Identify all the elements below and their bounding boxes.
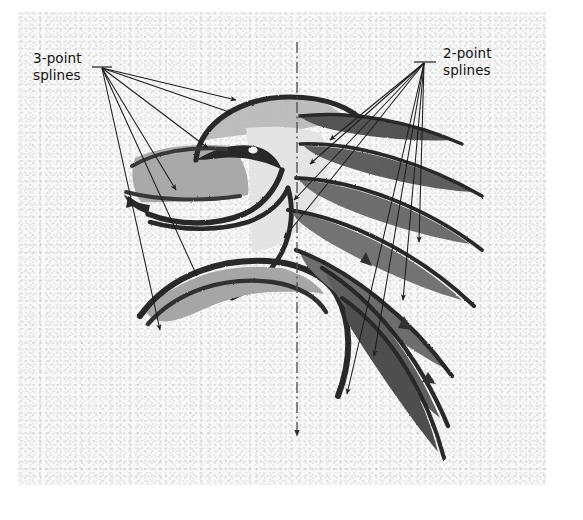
- figure-root: 3-point splines 2-point splines: [0, 0, 583, 520]
- callout-label-3-point-splines: 3-point splines: [33, 50, 82, 84]
- illustration-artwork: [0, 0, 583, 520]
- leader-left-3: [102, 68, 208, 148]
- callout-left-line2: splines: [33, 67, 82, 84]
- callout-left-line1: 3-point: [33, 50, 82, 67]
- neck-feather-left-fill: [146, 267, 324, 322]
- callout-right-line1: 2-point: [443, 45, 492, 62]
- callout-label-2-point-splines: 2-point splines: [443, 45, 492, 79]
- leader-left-1: [102, 68, 236, 100]
- leader-left-2: [102, 68, 232, 113]
- callout-right-line2: splines: [443, 62, 492, 79]
- eye: [248, 146, 257, 153]
- eagle-head-drawing: [124, 97, 482, 458]
